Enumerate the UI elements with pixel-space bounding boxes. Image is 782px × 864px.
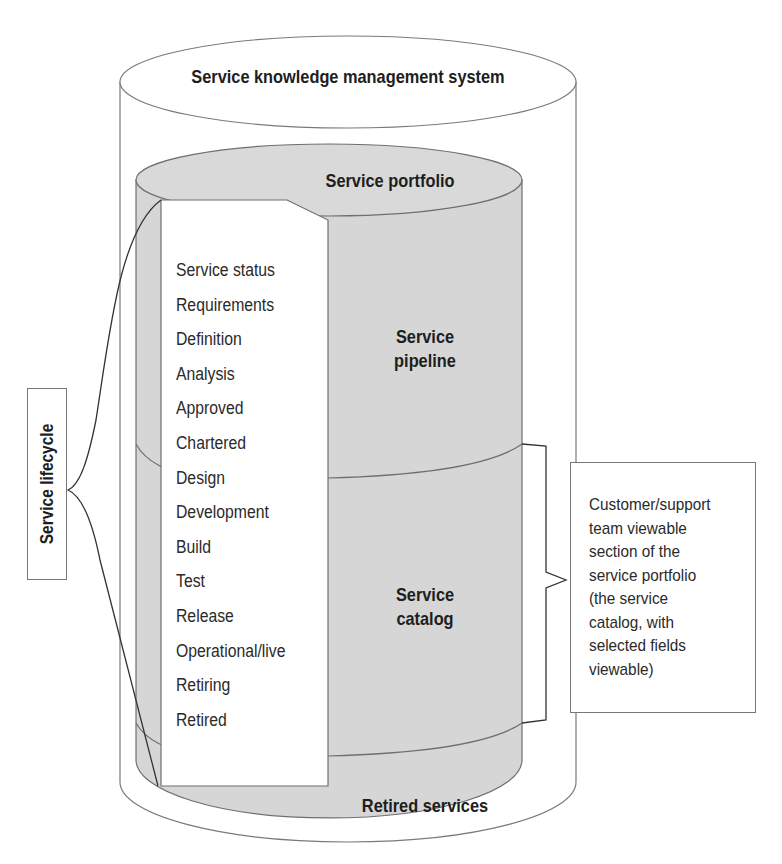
lifecycle-label: Service lifecycle <box>37 424 58 544</box>
callout-line: Customer/support <box>589 493 738 517</box>
status-item: Chartered <box>176 426 285 461</box>
status-item: Build <box>176 530 285 565</box>
service-pipeline-label: Service pipeline <box>352 325 498 373</box>
retired-services-label: Retired services <box>343 795 506 817</box>
status-item: Development <box>176 495 285 530</box>
status-item: Operational/live <box>176 634 285 669</box>
status-item: Service status <box>176 253 285 288</box>
callout-line: section of the <box>589 540 738 564</box>
status-item: Approved <box>176 391 285 426</box>
status-item: Retired <box>176 703 285 738</box>
callout-line: viewable) <box>589 658 738 682</box>
callout-line: (the service <box>589 587 738 611</box>
status-item: Test <box>176 564 285 599</box>
outer-cylinder-title: Service knowledge management system <box>152 66 544 88</box>
service-pipeline-line1: Service <box>352 325 498 349</box>
callout-line: selected fields <box>589 634 738 658</box>
status-list: Service status Requirements Definition A… <box>176 253 298 737</box>
status-item: Retiring <box>176 668 285 703</box>
callout-line: service portfolio <box>589 564 738 588</box>
callout-line: team viewable <box>589 517 738 541</box>
service-catalog-line1: Service <box>352 583 498 607</box>
status-item: Analysis <box>176 357 285 392</box>
service-portfolio-title: Service portfolio <box>270 170 511 192</box>
status-item: Definition <box>176 322 285 357</box>
catalog-callout-box: Customer/support team viewable section o… <box>570 462 756 713</box>
service-catalog-label: Service catalog <box>352 583 498 631</box>
status-item: Release <box>176 599 285 634</box>
status-item: Design <box>176 461 285 496</box>
diagram-shapes <box>0 0 782 864</box>
callout-line: catalog, with <box>589 611 738 635</box>
service-catalog-line2: catalog <box>352 607 498 631</box>
service-pipeline-line2: pipeline <box>352 349 498 373</box>
status-item: Requirements <box>176 288 285 323</box>
